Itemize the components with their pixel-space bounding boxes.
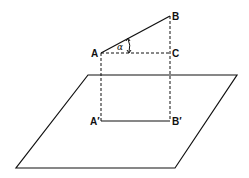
- label-alpha: α: [117, 42, 123, 52]
- label-c: C: [172, 48, 179, 59]
- label-a: A: [91, 48, 98, 59]
- segment-ab: [101, 16, 170, 53]
- label-b-prime: B′: [172, 116, 182, 127]
- projection-diagram: A B C A′ B′ α: [0, 0, 249, 178]
- label-a-prime: A′: [90, 116, 100, 127]
- label-b: B: [172, 11, 179, 22]
